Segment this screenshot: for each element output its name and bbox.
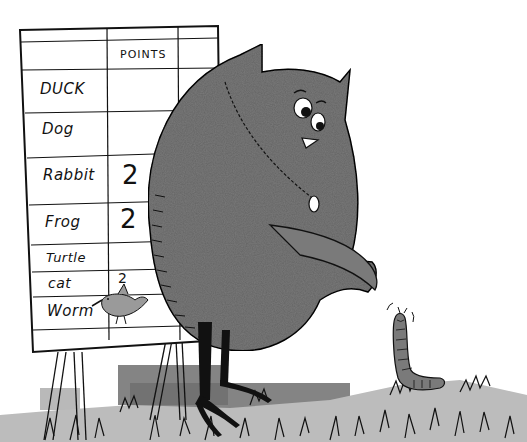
worm [387,303,445,390]
illustration-svg [0,0,527,442]
illustration-scene: POINTS DUCK Dog Rabbit 2 Frog 2 Turtle c… [0,0,527,442]
watch-fob [309,196,319,212]
